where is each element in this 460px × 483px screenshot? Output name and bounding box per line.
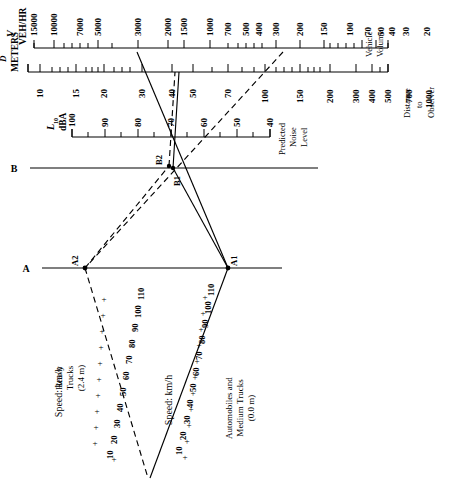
tick-label: 100 xyxy=(203,301,213,314)
tick-label: 60 xyxy=(199,118,209,128)
speed-autos-group-line1: Automobiles and xyxy=(224,377,234,439)
distance-caption-2: to xyxy=(414,101,424,108)
tick-label: 30 xyxy=(182,416,192,425)
tick-label: 200 xyxy=(325,89,335,103)
tick-label: 15 xyxy=(71,89,81,99)
speed-tick-mark: + xyxy=(100,310,105,320)
point-b1-marker xyxy=(171,166,175,170)
distance-caption-3: Observer xyxy=(426,87,436,118)
tick-label: 80 xyxy=(133,118,143,128)
point-b1-label: B1 xyxy=(172,176,182,186)
tick-label: 7000 xyxy=(75,18,85,37)
tick-label: 20 xyxy=(178,432,188,441)
tick-label: 40 xyxy=(115,404,125,413)
vehicle-volume-caption-1: Vehicle xyxy=(364,31,374,57)
tick-label: 700 xyxy=(223,22,233,36)
noise-level-caption-3: Level xyxy=(299,127,309,147)
tick-label: 60 xyxy=(191,368,201,377)
tick-label: 2000 xyxy=(163,18,173,37)
tick-label: 500 xyxy=(383,89,393,103)
point-a2-marker xyxy=(83,266,88,271)
tick-label: 40 xyxy=(265,118,275,128)
tick-label: 100 xyxy=(345,22,355,36)
speed-autos-title: Speed: km/h xyxy=(163,375,174,425)
tick-label: 100 xyxy=(67,113,77,127)
speed-tick-mark: + xyxy=(99,326,104,336)
speed-tick-mark: + xyxy=(95,390,100,400)
tick-label: 50 xyxy=(188,384,198,393)
tick-label: 70 xyxy=(194,352,204,361)
noise-level-units: dBA xyxy=(58,112,68,131)
speed-tick-mark: + xyxy=(101,294,106,304)
tick-label: 400 xyxy=(367,89,377,103)
distance-units: METERS xyxy=(10,32,20,72)
tick-label: 1500 xyxy=(179,18,189,37)
noise-level-caption-2: Noise xyxy=(288,127,298,147)
noise-level-caption-1: Predicted xyxy=(277,122,287,155)
vehicle-volume-caption-2: Volume xyxy=(375,30,385,57)
point-b2-marker xyxy=(167,164,171,168)
tick-label: 70 xyxy=(223,89,233,99)
tick-label: 110 xyxy=(136,288,146,300)
tick-label: 90 xyxy=(100,118,110,128)
speed-tick-mark: + xyxy=(93,422,98,432)
point-b2-label: B2 xyxy=(154,155,164,165)
speed-autos-group-line2: Medium Trucks xyxy=(235,379,245,437)
tick-label: 500 xyxy=(241,22,251,36)
tick-label: 150 xyxy=(319,22,329,36)
tick-label: 30 xyxy=(112,420,122,429)
tick-label: 70 xyxy=(124,356,134,365)
tick-label: 20 xyxy=(422,27,432,37)
pivot-line-a-label: A xyxy=(22,263,30,274)
distance-symbol: D xyxy=(0,55,8,63)
tick-label: 20 xyxy=(109,436,119,445)
tick-label: 30 xyxy=(137,89,147,99)
tick-label: 10 xyxy=(35,89,45,99)
tick-label: 80 xyxy=(127,340,137,349)
tick-label: 50 xyxy=(232,118,242,128)
tick-label: 10 xyxy=(174,447,184,456)
tick-label: 50 xyxy=(188,89,198,99)
speed-tick-mark: + xyxy=(96,374,101,384)
point-a2-label: A2 xyxy=(70,256,80,266)
tick-label: 200 xyxy=(295,22,305,36)
tick-label: 10 xyxy=(105,451,115,460)
tick-label: 10000 xyxy=(49,13,59,36)
speed-tick-mark: + xyxy=(97,358,102,368)
tick-label: 110 xyxy=(206,284,216,296)
tick-label: 100 xyxy=(133,305,143,318)
speed-trucks-group-line1: Heavy xyxy=(54,366,64,390)
distance-caption-1: Distance xyxy=(402,88,412,118)
speed-trucks-group-line3: (2.4 m) xyxy=(76,365,86,392)
tick-label: 90 xyxy=(130,324,140,333)
tick-label: 1000 xyxy=(205,18,215,37)
tick-label: 40 xyxy=(387,27,397,37)
tick-label: 30 xyxy=(401,27,411,37)
tick-label: 5000 xyxy=(93,18,103,37)
speed-tick-mark: + xyxy=(92,438,97,448)
pivot-line-b-label: B xyxy=(11,163,18,174)
tick-label: 3000 xyxy=(133,18,143,37)
speed-autos-group-line3: (0.0 m) xyxy=(246,395,256,422)
speed-tick-mark: + xyxy=(94,406,99,416)
tick-label: 300 xyxy=(271,22,281,36)
tick-label: 40 xyxy=(185,400,195,409)
tick-label: 100 xyxy=(260,89,270,103)
tick-label: 300 xyxy=(351,89,361,103)
speed-trucks-group-line2: Trucks xyxy=(65,365,75,390)
tick-label: 150 xyxy=(295,89,305,103)
tick-label: 50 xyxy=(118,388,128,397)
tick-label: 20 xyxy=(99,89,109,99)
tick-label: 80 xyxy=(197,336,207,345)
tick-label: 15000 xyxy=(29,13,39,36)
tick-label: 60 xyxy=(121,372,131,381)
tick-label: 90 xyxy=(200,320,210,329)
tick-label: 400 xyxy=(254,22,264,36)
traffic-noise-nomograph: 15000 10000 7000 5000 3000 2000 1500 100… xyxy=(0,0,460,483)
point-a1-label: A1 xyxy=(229,256,239,266)
tick-label: 40 xyxy=(167,89,177,99)
speed-tick-mark: + xyxy=(98,342,103,352)
